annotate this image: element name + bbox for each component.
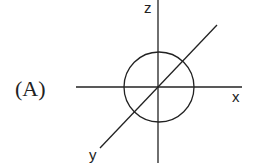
coordinate-diagram: z x y (A) (0, 0, 257, 163)
option-label: (A) (15, 76, 46, 101)
z-axis-label: z (144, 0, 152, 16)
x-axis-label: x (232, 88, 240, 105)
y-axis-label: y (89, 146, 97, 163)
